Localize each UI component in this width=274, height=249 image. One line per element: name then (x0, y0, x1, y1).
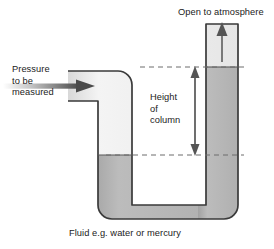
label-pressure-line-2: to be (12, 76, 54, 88)
label-height-line-1: Height (150, 92, 180, 104)
caption-fluid: Fluid e.g. water or mercury (69, 228, 181, 240)
manometer-diagram: Pressure to be measured Height of column… (0, 0, 274, 249)
manometer-figure (0, 0, 274, 249)
label-height-of-column: Height of column (150, 92, 180, 127)
label-pressure-to-be-measured: Pressure to be measured (12, 64, 54, 99)
label-height-line-2: of (150, 104, 180, 116)
label-height-line-3: column (150, 115, 180, 127)
label-open-to-atmosphere: Open to atmosphere (178, 7, 264, 19)
label-pressure-line-1: Pressure (12, 64, 54, 76)
height-of-column-arrow (191, 66, 200, 156)
label-pressure-line-3: measured (12, 87, 54, 99)
